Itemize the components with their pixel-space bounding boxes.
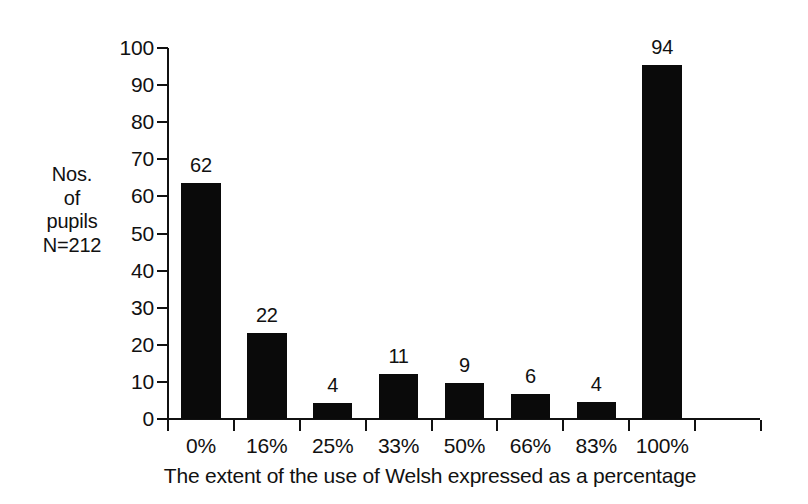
x-axis-tick-mark — [299, 420, 301, 431]
y-axis-tick-mark — [157, 195, 168, 197]
bar-value-label: 22 — [234, 305, 300, 325]
x-axis-tick-mark — [167, 420, 169, 431]
y-axis-tick-mark — [157, 47, 168, 49]
bar — [642, 65, 682, 419]
x-axis-title: The extent of the use of Welsh expressed… — [120, 464, 740, 488]
x-axis-tick-mark — [628, 420, 630, 431]
bar-value-label: 9 — [432, 355, 498, 375]
x-axis-tick-label: 25% — [300, 434, 366, 458]
x-axis-tick-label: 66% — [497, 434, 563, 458]
bar — [379, 374, 419, 419]
y-axis-tick-label: 10 — [94, 371, 154, 392]
y-axis-tick-label: 0 — [94, 408, 154, 429]
bar — [445, 383, 485, 419]
y-axis-tick-label: 20 — [94, 334, 154, 355]
bar-value-label: 11 — [366, 346, 432, 366]
y-axis-tick-label: 80 — [94, 111, 154, 132]
x-axis-tick-mark — [760, 420, 762, 431]
bar-value-label: 4 — [563, 374, 629, 394]
x-axis-tick-mark — [431, 420, 433, 431]
x-axis-tick-mark — [562, 420, 564, 431]
x-axis-tick-mark — [233, 420, 235, 431]
y-axis-tick-label: 90 — [94, 74, 154, 95]
y-axis-tick-mark — [157, 84, 168, 86]
bar — [511, 394, 551, 419]
bar — [181, 183, 221, 419]
x-axis-tick-label: 33% — [366, 434, 432, 458]
x-axis-tick-label: 100% — [629, 434, 695, 458]
y-axis-tick-mark — [157, 270, 168, 272]
bar — [313, 403, 353, 419]
x-axis-tick-mark — [496, 420, 498, 431]
y-axis-tick-mark — [157, 307, 168, 309]
y-axis-tick-mark — [157, 381, 168, 383]
x-axis-tick-mark — [694, 420, 696, 431]
y-axis-tick-mark — [157, 344, 168, 346]
bar — [577, 402, 617, 419]
x-axis-tick-label: 50% — [432, 434, 498, 458]
x-axis-tick-label: 83% — [563, 434, 629, 458]
y-axis-tick-label: 40 — [94, 260, 154, 281]
y-axis-tick-mark — [157, 233, 168, 235]
x-axis-tick-mark — [365, 420, 367, 431]
bar — [247, 333, 287, 419]
bar-chart-figure: 0102030405060708090100 0%16%25%33%50%66%… — [0, 0, 808, 504]
y-axis-title: Nos. of pupils N=212 — [8, 163, 136, 257]
x-axis-tick-label: 16% — [234, 434, 300, 458]
bar-value-label: 6 — [497, 366, 563, 386]
bar-value-label: 4 — [300, 375, 366, 395]
y-axis-tick-mark — [157, 121, 168, 123]
y-axis-tick-mark — [157, 158, 168, 160]
bar-value-label: 94 — [629, 37, 695, 57]
y-axis-tick-label: 30 — [94, 297, 154, 318]
bar-value-label: 62 — [168, 155, 234, 175]
x-axis-tick-label: 0% — [168, 434, 234, 458]
y-axis-tick-label: 100 — [94, 37, 154, 58]
